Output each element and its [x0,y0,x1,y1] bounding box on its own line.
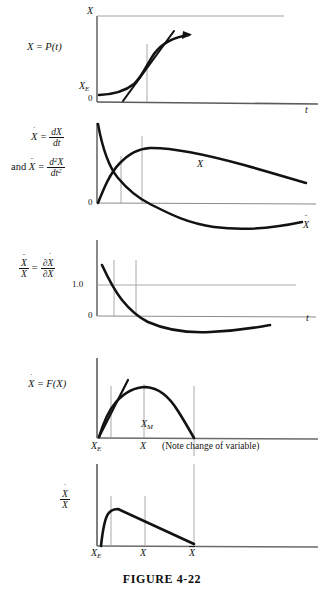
panel-3-x-axis-label: t [306,312,309,323]
panel-1-curve-arrowhead [182,31,192,39]
panel-2-eq1-lhs: Ẋ [31,131,37,142]
panel-1-tangent-line [123,31,174,101]
panel-4-peak-label-sub: M [147,423,153,431]
panel-4-x-axis [97,438,318,439]
panel-2-curve-label-xdot: Ẋ [197,158,203,169]
panel-4-x-tick-xe: XE [91,440,101,453]
panel-2-eq2-den-exponent: 2 [58,167,62,175]
panel-3-plot [84,238,320,356]
panel-3-eq-lhs-den: Ẋ [19,269,29,279]
panel-5-x-tick-overbar-icon [189,546,195,547]
panel-3-y-tick-zero: 0 [88,310,93,320]
panel-3-y-tick-one: 1.0 [72,279,83,289]
panel-1-y-tick-xe-sub: E [85,85,89,93]
panel-2-curve-label-xddot: Ẍ [303,219,309,230]
panel-2-curve-label-xdot-sym: Ẋ [197,158,203,169]
panel-3-eq-rhs-fraction: ∂Ẋ ∂X [41,258,56,280]
panel-5-specific-growth-rate-curve [101,509,194,546]
figure-root: X=P(t) X XE 0 t Ẋ=dXdt and Ẍ=d2Xdt2 0 [0,0,324,595]
panel-4-eq-rhs: F(X) [46,378,66,389]
panel-4-tangent-line [99,380,128,437]
panel-2-equation-line-2: and Ẍ=d2Xdt2 [11,157,65,179]
panel-4-peak-label: XM [141,418,153,431]
panel-2-eq2-denominator: dt2 [47,168,65,178]
panel-5-equation-label: Ẋ X [60,489,70,511]
panel-4-x-tick-x: X [140,440,146,451]
panel-1-x-axis [97,102,318,104]
panel-2-eq2-lhs: Ẍ [29,161,35,172]
panel-2-plot [84,118,320,243]
panel-5-eq-numerator: Ẋ [60,489,70,500]
panel-2-x-axis [97,203,316,204]
panel-2-eq1-numerator: dX [49,127,64,138]
panel-4-eq-equals: = [34,378,46,389]
panel-5-eq-fraction: Ẋ X [60,489,70,511]
panel-2-eq1-denominator: dt [49,138,64,148]
panel-1-equation-label: X=P(t) [27,41,62,52]
panel-5-x-axis [97,546,318,547]
panel-2-y-tick-zero: 0 [88,197,93,207]
panel-5-num-sym: Ẋ [62,489,68,499]
panel-1-sigmoid-growth-curve [99,35,189,95]
panel-2-eq2-equals: = [35,161,47,172]
figure-caption: FIGURE 4-22 [0,572,324,587]
panel-3-equation-label: Ẍ Ẋ = ∂Ẋ ∂X [19,258,55,280]
panel-1-plot [84,6,320,114]
panel-3-lhs-den-sym: Ẋ [21,269,27,279]
panel-1-eq-equals: = [33,41,45,52]
panel-5-plot [84,462,320,560]
panel-2-first-derivative-curve [98,148,306,203]
panel-3-eq-lhs-num: Ẍ [19,258,29,269]
panel-3-lhs-num-sym: Ẍ [21,258,27,268]
panel-3-eq-rhs-den: ∂X [41,269,56,279]
panel-2-eq2-num-exponent: 2 [54,156,58,164]
panel-5-x-tick-x: X [140,547,146,558]
panel-4-x-tick-xe-sub: E [97,445,101,453]
panel-5-x-tick-xe: XE [91,547,101,560]
panel-5-x-tick-xbar: X [189,547,195,558]
panel-3-eq-rhs-num: ∂Ẋ [41,258,56,269]
panel-3-x-axis [97,316,316,317]
panel-4-note: (Note change of variable) [162,441,259,451]
panel-1-y-tick-zero: 0 [88,93,93,103]
panel-5-x-tick-xbar-sym: X [189,547,195,558]
panel-1-eq-rhs: P(t) [45,41,61,52]
panel-2-eq2-fraction: d2Xdt2 [47,157,65,179]
panel-2-eq2-numerator: d2X [47,157,65,168]
panel-2-equation-line-1: Ẋ=dXdt [31,127,64,149]
panel-4-eq-lhs: Ẋ [28,378,34,389]
panel-3-relative-growth-rate-curve [102,265,270,332]
panel-5-eq-denominator: X [60,500,70,510]
panel-1-y-tick-xe: XE [79,80,89,93]
panel-3-eq-lhs-fraction: Ẍ Ẋ [19,258,29,280]
panel-4-equation-label: Ẋ=F(X) [28,378,66,389]
panel-3-eq-equals: = [29,262,41,273]
panel-2-curve-label-xddot-sym: Ẍ [303,219,309,230]
panel-2-second-derivative-curve [98,124,302,229]
panel-2-eq1-fraction: dXdt [49,127,64,149]
panel-5-x-tick-xe-sub: E [97,552,101,560]
panel-1-x-axis-label: t [305,104,308,115]
panel-1-y-axis-label: X [87,5,93,16]
panel-2-eq1-equals: = [37,131,49,142]
panel-2-eq2-and: and [11,161,26,172]
panel-3-rhs-num-sym: Ẋ [47,258,53,268]
